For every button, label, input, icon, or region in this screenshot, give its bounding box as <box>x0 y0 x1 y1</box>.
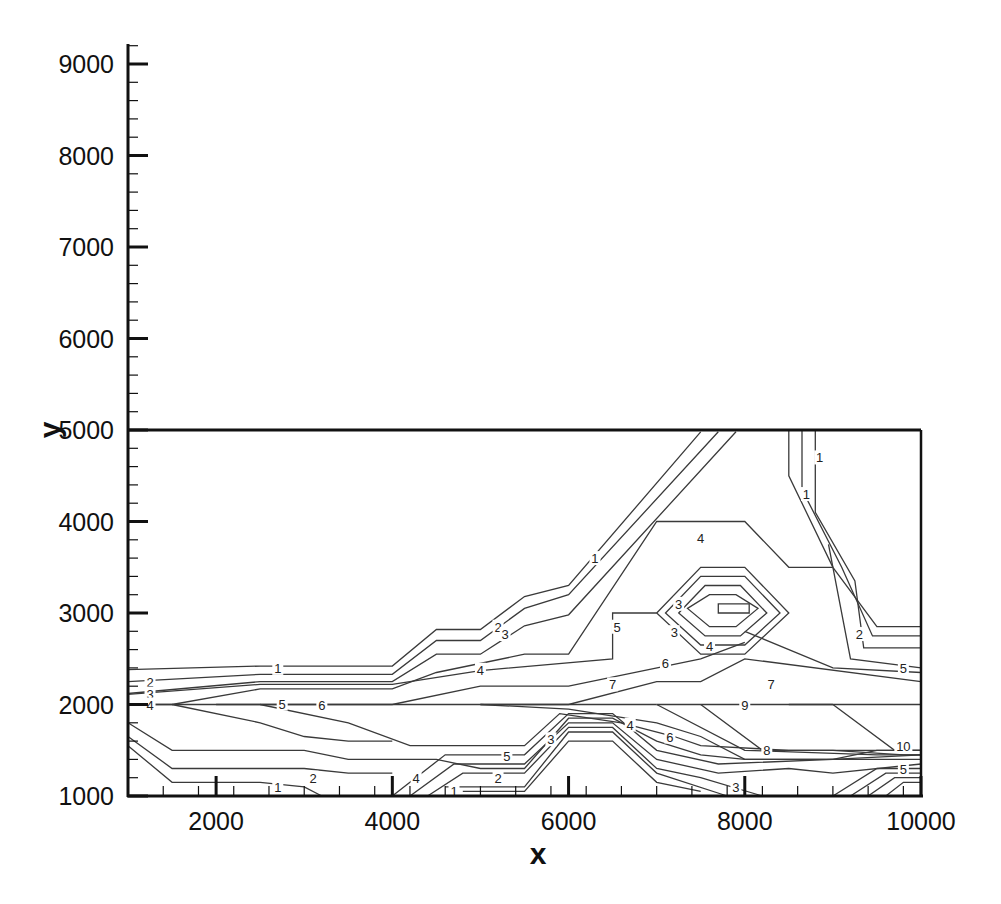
x-tick-label: 6000 <box>541 807 597 835</box>
contour-label: 7 <box>766 677 777 692</box>
x-axis-title: x <box>530 837 547 870</box>
contour-label: 1 <box>272 780 283 795</box>
x-tick-label: 10000 <box>886 807 956 835</box>
contour-label: 2 <box>493 771 504 786</box>
contour-line <box>428 727 763 796</box>
svg-text:4: 4 <box>627 718 634 733</box>
svg-text:1: 1 <box>274 661 281 676</box>
contour-label: 1 <box>814 450 825 465</box>
contour-lines <box>128 430 921 796</box>
svg-text:4: 4 <box>413 771 420 786</box>
svg-text:10: 10 <box>896 739 910 754</box>
contour-label: 6 <box>316 698 327 713</box>
contour-line <box>128 737 392 774</box>
svg-text:5: 5 <box>900 762 907 777</box>
svg-text:6: 6 <box>662 656 669 671</box>
svg-text:1: 1 <box>803 487 810 502</box>
svg-text:2: 2 <box>856 627 863 642</box>
contour-label: 3 <box>669 625 680 640</box>
contour-label: 5 <box>898 762 909 777</box>
contour-line <box>745 631 921 672</box>
contour-label: 5 <box>898 661 909 676</box>
svg-text:5: 5 <box>900 661 907 676</box>
svg-text:1: 1 <box>591 551 598 566</box>
x-tick-label: 2000 <box>188 807 244 835</box>
contour-line <box>128 746 322 796</box>
svg-text:1: 1 <box>274 780 281 795</box>
y-tick-label: 3000 <box>58 599 114 627</box>
svg-text:4: 4 <box>697 531 704 546</box>
y-tick-label: 4000 <box>58 508 114 536</box>
contour-label: 3 <box>730 780 741 795</box>
contour-label: 8 <box>761 743 772 758</box>
contour-label: 7 <box>607 677 618 692</box>
svg-text:7: 7 <box>768 677 775 692</box>
svg-text:6: 6 <box>666 730 673 745</box>
contour-line <box>829 544 922 668</box>
contour-label: 4 <box>475 663 486 678</box>
svg-text:4: 4 <box>706 639 713 654</box>
svg-text:3: 3 <box>501 627 508 642</box>
y-tick-label: 1000 <box>58 782 114 810</box>
contour-line <box>128 432 718 682</box>
contour-label: 4 <box>625 718 636 733</box>
contour-label: 1 <box>589 551 600 566</box>
svg-text:5: 5 <box>613 620 620 635</box>
contour-label: 3 <box>673 597 684 612</box>
svg-text:8: 8 <box>763 743 770 758</box>
contour-label: 2 <box>308 771 319 786</box>
contour-line <box>480 659 921 705</box>
svg-text:2: 2 <box>494 771 501 786</box>
contour-label: 1 <box>272 661 283 676</box>
contour-line <box>392 642 745 704</box>
y-axis-title: y <box>33 421 66 438</box>
x-tick-label: 8000 <box>717 807 773 835</box>
contour-label: 1 <box>801 487 812 502</box>
contour-label: 5 <box>277 697 288 712</box>
x-axis: 200040006000800010000 <box>127 776 956 835</box>
contour-label: 4 <box>695 531 706 546</box>
y-tick-label: 9000 <box>58 50 114 78</box>
svg-text:9: 9 <box>741 698 748 713</box>
contour-line <box>718 604 749 613</box>
svg-text:4: 4 <box>477 663 484 678</box>
contour-label: 3 <box>500 627 511 642</box>
svg-text:3: 3 <box>671 625 678 640</box>
svg-text:5: 5 <box>503 749 510 764</box>
y-tick-label: 2000 <box>58 691 114 719</box>
svg-text:3: 3 <box>675 597 682 612</box>
contour-line <box>688 595 759 627</box>
svg-text:3: 3 <box>547 732 554 747</box>
y-axis: 100020003000400050006000700080009000 <box>58 44 148 810</box>
contour-label: 4 <box>704 639 715 654</box>
x-tick-label: 4000 <box>365 807 421 835</box>
svg-text:3: 3 <box>732 780 739 795</box>
contour-label: 5 <box>612 620 623 635</box>
contour-line <box>128 432 736 694</box>
y-tick-label: 5000 <box>58 416 114 444</box>
svg-text:1: 1 <box>816 450 823 465</box>
contour-label: 5 <box>501 749 512 764</box>
contour-label: 2 <box>854 627 865 642</box>
contour-line <box>657 705 921 755</box>
contour-label: 3 <box>545 732 556 747</box>
contour-label: 6 <box>664 730 675 745</box>
contour-label: 10 <box>894 739 912 754</box>
svg-text:5: 5 <box>279 697 286 712</box>
contour-line <box>868 778 921 796</box>
y-tick-label: 8000 <box>58 142 114 170</box>
svg-text:2: 2 <box>309 771 316 786</box>
svg-text:6: 6 <box>318 698 325 713</box>
contour-label: 4 <box>411 771 422 786</box>
contour-chart: 1234564231411533467725946810535321412 10… <box>0 0 1001 904</box>
y-tick-label: 7000 <box>58 233 114 261</box>
contour-line <box>392 714 921 796</box>
svg-text:7: 7 <box>609 677 616 692</box>
contour-line <box>679 586 767 636</box>
y-tick-label: 6000 <box>58 325 114 353</box>
contour-label: 6 <box>660 656 671 671</box>
contour-label: 9 <box>739 698 750 713</box>
